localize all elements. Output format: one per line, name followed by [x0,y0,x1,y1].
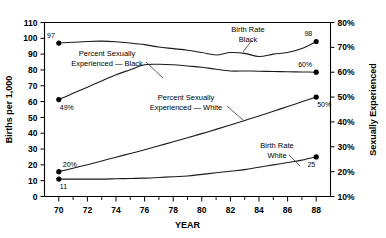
annotation-line-1: Birth Rate [260,141,293,150]
y-axis-left-tick-label: 20 [28,160,38,170]
y-axis-left-tick-label: 110 [24,18,38,28]
y-axis-left-tick-label: 50 [28,113,38,123]
data-point-marker [56,177,61,182]
y-axis-left-tick-label: 10 [28,176,38,186]
y-axis-right-tick-label: 70% [338,42,355,52]
annotation-leader-line [227,106,243,120]
x-axis-tick-label: 88 [311,205,321,215]
x-axis-tick-label: 74 [111,205,121,215]
x-axis-tick-label: 72 [83,205,93,215]
data-point-label: 97 [47,32,55,39]
x-axis-tick-label: 76 [140,205,150,215]
chart-container: 010203040506070809010011010%20%30%40%50%… [0,0,386,238]
data-point-marker [56,40,61,45]
x-axis-tick-label: 78 [168,205,178,215]
data-point-marker [314,154,319,159]
y-axis-left-tick-label: 30 [28,144,38,154]
x-axis-tick-label: 86 [283,205,293,215]
y-axis-left-tick-label: 100 [23,33,37,43]
y-axis-left-tick-label: 0 [33,192,38,202]
data-point-label: 25 [307,161,315,168]
data-point-label: 49% [60,104,74,111]
x-axis-tick-label: 82 [226,205,236,215]
y-axis-right-tick-label: 50% [338,92,355,102]
y-axis-right-tick-label: 40% [338,117,355,127]
data-point-marker [314,39,319,44]
x-axis-tick-label: 80 [197,205,207,215]
y-axis-right-tick-label: 30% [338,142,355,152]
line-chart: 010203040506070809010011010%20%30%40%50%… [0,0,386,238]
y-axis-right-tick-label: 60% [338,67,355,77]
x-axis-tick-label: 70 [54,205,64,215]
data-point-label: 98 [304,30,312,37]
data-point-label: 50% [317,101,331,108]
y-axis-left-tick-label: 80 [28,65,38,75]
x-axis-tick-label: 84 [254,205,264,215]
data-point-label: 20% [63,161,77,168]
series-annotation-pct-sex-exp-white: Percent SexuallyExperienced — White [150,93,243,120]
data-point-marker [56,97,61,102]
y-axis-right-tick-label: 80% [338,18,355,28]
data-point-marker [314,70,319,75]
series-annotation-birth-rate-black: Birth RateBlack [231,25,264,52]
annotation-line-2: Experienced — Black [71,59,143,68]
series-annotation-pct-sex-exp-black: Percent SexuallyExperienced — Black [71,49,163,78]
data-point-marker [314,94,319,99]
annotation-line-2: White [267,151,286,160]
series-annotation-birth-rate-white: Birth RateWhite [260,141,300,166]
annotation-line-1: Percent Sexually [79,49,136,58]
y-axis-right-tick-label: 20% [338,167,355,177]
y-axis-left-title: Births per 1,000 [4,76,14,144]
data-point-label: 11 [60,183,67,190]
data-point-label: 60% [298,61,312,68]
y-axis-right-tick-label: 10% [338,192,355,202]
y-axis-left-tick-label: 70 [28,81,38,91]
y-axis-left-tick-label: 90 [28,49,38,59]
y-axis-left-tick-label: 60 [28,97,38,107]
y-axis-left-tick-label: 40 [28,128,38,138]
data-point-marker [56,169,61,174]
annotation-line-2: Black [239,35,258,44]
annotation-line-1: Percent Sexually [158,93,215,102]
series-line-3 [59,157,316,179]
annotation-line-2: Experienced — White [150,103,223,112]
x-axis-title: YEAR [175,220,201,230]
y-axis-right-title: Sexually Experienced [368,63,378,156]
annotation-line-1: Birth Rate [231,25,264,34]
